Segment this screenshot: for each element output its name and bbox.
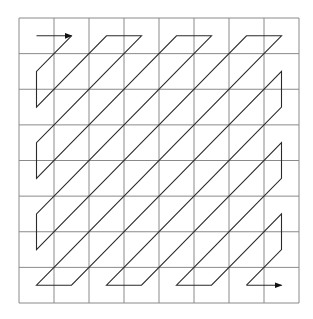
- zigzag-diagram: [0, 0, 313, 319]
